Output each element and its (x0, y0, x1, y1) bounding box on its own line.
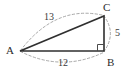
vertex-label-a: A (6, 45, 14, 56)
side-length-label-bc: 5 (115, 28, 120, 38)
vertex-label-c: C (103, 2, 110, 13)
side-length-label-ab: 12 (58, 58, 68, 68)
triangle-outline (20, 16, 104, 51)
geometry-diagram: A B C 13 12 5 (0, 0, 126, 73)
side-length-label-ac: 13 (44, 12, 54, 22)
right-angle-marker-icon (98, 45, 105, 52)
vertex-label-b: B (107, 57, 114, 68)
